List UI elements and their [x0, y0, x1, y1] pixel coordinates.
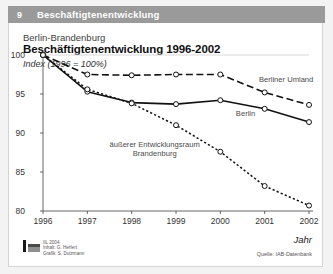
figure-credits: IIL 2004 Inhalt: G. Herfert Grafik: S. D…: [23, 239, 84, 256]
y-tick-label: 100: [5, 50, 25, 60]
figure-body: Berlin-Brandenburg Beschäftigtenentwickl…: [8, 23, 323, 267]
figure-source: Quelle: IAB-Datenbank: [257, 251, 312, 257]
x-tick-label: 1999: [159, 216, 193, 226]
x-tick-label: 2002: [292, 216, 326, 226]
x-axis-title: Jahr: [294, 234, 312, 245]
x-tick-label: 2001: [248, 216, 282, 226]
figure-header-title: Beschäftigtenentwicklung: [37, 9, 160, 20]
institute-logo-icon: [23, 239, 40, 252]
x-tick-label: 1998: [115, 216, 149, 226]
series-label: Berliner Umland: [259, 75, 313, 84]
credit-text: IIL 2004 Inhalt: G. Herfert Grafik: S. D…: [43, 239, 84, 256]
y-tick-label: 80: [5, 206, 25, 216]
series-label: Berlin: [236, 109, 255, 118]
x-tick-label: 1996: [26, 216, 60, 226]
figure-number: 9: [17, 10, 27, 20]
chart-figure: 9 Beschäftigtenentwicklung Berlin-Brande…: [0, 0, 333, 274]
x-tick-label: 1997: [70, 216, 104, 226]
figure-header-bar: 9 Beschäftigtenentwicklung: [8, 6, 325, 23]
y-tick-label: 85: [5, 167, 25, 177]
credit-line-3: Grafik: S. Dutzmann: [43, 251, 84, 256]
x-tick-label: 2000: [203, 216, 237, 226]
figure-subtitle: Berlin-Brandenburg: [23, 32, 105, 43]
series-label: äußerer EntwicklungsraumBrandenburg: [110, 140, 200, 158]
plot-area: [17, 47, 316, 227]
y-tick-label: 90: [5, 128, 25, 138]
y-tick-label: 95: [5, 89, 25, 99]
